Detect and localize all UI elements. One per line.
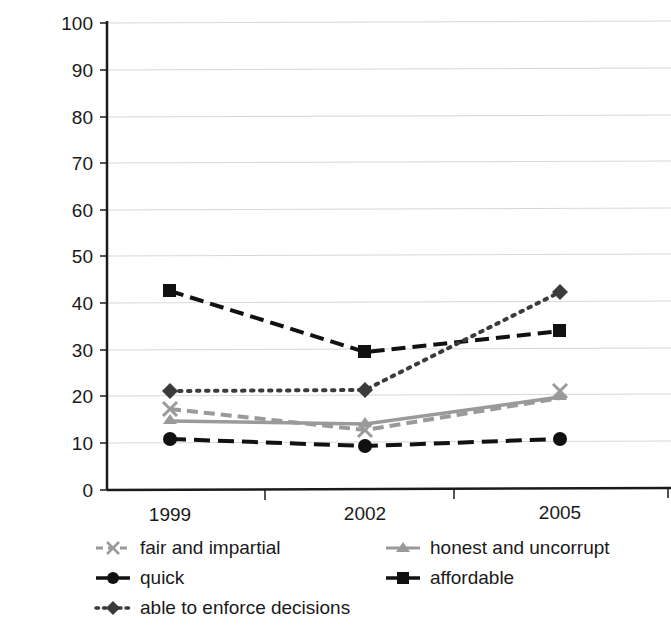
chart-canvas: 100 90 80 70 60 50 40 30 20 10 0 1999 20… — [0, 0, 671, 630]
x-tick-label-1999: 1999 — [149, 504, 191, 525]
data-point-affordable-2005 — [553, 324, 566, 337]
legend-label-quick: quick — [140, 567, 185, 588]
legend-item-fair-and-impartial[interactable]: fair and impartial — [96, 537, 280, 558]
legend-label-honest: honest and uncorrupt — [430, 537, 610, 558]
data-point-quick-1999 — [163, 432, 177, 446]
y-tick-label: 50 — [72, 246, 93, 267]
chart-legend: fair and impartial honest and uncorrupt … — [96, 537, 610, 618]
data-point-affordable-2002 — [358, 345, 371, 358]
legend-label-enforce: able to enforce decisions — [140, 597, 350, 618]
y-tick-labels: 100 90 80 70 60 50 40 30 20 10 0 — [61, 13, 93, 501]
series-quick — [163, 432, 567, 453]
y-tick-label: 100 — [61, 13, 93, 34]
data-point-quick-2002 — [358, 439, 372, 453]
data-point-quick-2005 — [553, 432, 567, 446]
circle-marker-icon — [107, 572, 119, 584]
data-point-affordable-1999 — [163, 284, 176, 297]
legend-item-able-to-enforce-decisions[interactable]: able to enforce decisions — [96, 597, 350, 618]
y-tick-label: 90 — [72, 60, 93, 81]
y-tick-label: 40 — [72, 293, 93, 314]
y-tick-label: 30 — [72, 340, 93, 361]
legend-item-affordable[interactable]: affordable — [386, 567, 514, 588]
square-marker-icon — [397, 572, 409, 584]
diamond-marker-icon — [106, 601, 120, 615]
legend-item-quick[interactable]: quick — [96, 567, 185, 588]
data-point-enforce-1999 — [162, 383, 178, 399]
x-tick-labels: 1999 2002 2005 — [149, 502, 581, 525]
x-tick-label-2005: 2005 — [539, 502, 581, 523]
legend-item-honest-and-uncorrupt[interactable]: honest and uncorrupt — [386, 537, 610, 558]
legend-label-affordable: affordable — [430, 567, 514, 588]
x-axis — [107, 488, 671, 500]
y-tick-label: 70 — [72, 153, 93, 174]
line-chart: 100 90 80 70 60 50 40 30 20 10 0 1999 20… — [0, 0, 671, 630]
y-axis — [100, 21, 107, 490]
y-tick-label: 0 — [82, 480, 93, 501]
y-tick-label: 20 — [72, 386, 93, 407]
data-point-enforce-2005 — [552, 284, 568, 300]
x-tick-label-2002: 2002 — [344, 503, 386, 524]
legend-label-fair: fair and impartial — [140, 537, 280, 558]
y-tick-label: 10 — [72, 433, 93, 454]
gridlines — [107, 21, 671, 443]
y-tick-label: 60 — [72, 200, 93, 221]
y-tick-label: 80 — [72, 107, 93, 128]
